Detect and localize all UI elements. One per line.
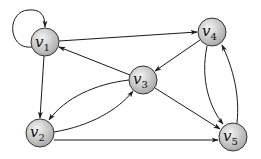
node-v3: v3 xyxy=(129,66,157,94)
edge-v3-v1 xyxy=(59,47,130,75)
edge-v4-v3 xyxy=(155,40,200,71)
edge-v5-v4 xyxy=(222,45,238,123)
node-v5: v5 xyxy=(219,123,247,151)
node-v4: v4 xyxy=(198,18,226,46)
edge-v1-v2 xyxy=(40,56,44,118)
edge-v3-v2 xyxy=(49,80,129,120)
graph-diagram: v1 v2 v3 v4 v5 xyxy=(0,0,261,159)
edge-v3-v5 xyxy=(155,88,220,129)
edge-v4-v5 xyxy=(205,46,223,124)
edge-v2-v3 xyxy=(54,91,133,132)
node-v1: v1 xyxy=(31,28,59,56)
node-v2: v2 xyxy=(26,119,54,147)
edge-v1-v4 xyxy=(59,32,197,41)
